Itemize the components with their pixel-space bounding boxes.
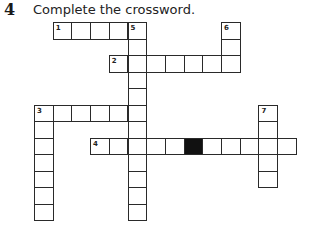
crossword-cell[interactable] <box>277 138 297 156</box>
crossword-cell[interactable] <box>258 154 278 172</box>
crossword-cell[interactable] <box>258 121 278 139</box>
crossword-cell[interactable]: 1 <box>53 22 73 40</box>
crossword-cell[interactable] <box>128 72 148 90</box>
crossword-cell[interactable] <box>128 154 148 172</box>
crossword-cell[interactable] <box>34 187 54 205</box>
crossword-cell[interactable] <box>221 138 241 156</box>
black-cell <box>184 138 204 156</box>
clue-number: 5 <box>131 24 136 32</box>
crossword-cell[interactable] <box>128 171 148 189</box>
crossword-cell[interactable] <box>146 55 166 73</box>
crossword-cell[interactable] <box>128 204 148 222</box>
crossword-cell[interactable] <box>240 138 260 156</box>
crossword-cell[interactable] <box>202 55 222 73</box>
crossword-cell[interactable] <box>34 121 54 139</box>
crossword-cell[interactable]: 6 <box>221 22 241 40</box>
crossword-cell[interactable] <box>128 187 148 205</box>
crossword-grid: 1523467 <box>0 0 312 227</box>
crossword-cell[interactable]: 3 <box>34 105 54 123</box>
crossword-cell[interactable] <box>34 154 54 172</box>
crossword-cell[interactable] <box>128 55 148 73</box>
clue-number: 2 <box>112 57 117 65</box>
crossword-cell[interactable] <box>258 138 278 156</box>
crossword-cell[interactable] <box>71 22 91 40</box>
clue-number: 1 <box>56 24 61 32</box>
crossword-cell[interactable] <box>34 171 54 189</box>
crossword-cell[interactable]: 2 <box>109 55 129 73</box>
clue-number: 6 <box>224 24 229 32</box>
crossword-cell[interactable] <box>53 105 73 123</box>
clue-number: 7 <box>261 107 266 115</box>
crossword-cell[interactable] <box>221 55 241 73</box>
crossword-cell[interactable] <box>90 105 110 123</box>
crossword-cell[interactable]: 4 <box>90 138 110 156</box>
crossword-cell[interactable] <box>90 22 110 40</box>
crossword-cell[interactable]: 7 <box>258 105 278 123</box>
clue-number: 4 <box>93 140 98 148</box>
crossword-cell[interactable] <box>34 204 54 222</box>
clue-number: 3 <box>37 107 42 115</box>
crossword-cell[interactable] <box>165 138 185 156</box>
crossword-cell[interactable] <box>109 138 129 156</box>
crossword-cell[interactable] <box>221 39 241 57</box>
crossword-cell[interactable] <box>71 105 91 123</box>
crossword-cell[interactable] <box>165 55 185 73</box>
crossword-cell[interactable] <box>109 22 129 40</box>
crossword-cell[interactable] <box>146 138 166 156</box>
crossword-cell[interactable] <box>128 121 148 139</box>
crossword-cell[interactable] <box>109 105 129 123</box>
crossword-cell[interactable] <box>184 55 204 73</box>
crossword-cell[interactable]: 5 <box>128 22 148 40</box>
crossword-cell[interactable] <box>258 171 278 189</box>
crossword-cell[interactable] <box>128 88 148 106</box>
crossword-cell[interactable] <box>202 138 222 156</box>
crossword-cell[interactable] <box>128 138 148 156</box>
crossword-cell[interactable] <box>128 39 148 57</box>
crossword-cell[interactable] <box>34 138 54 156</box>
crossword-cell[interactable] <box>128 105 148 123</box>
